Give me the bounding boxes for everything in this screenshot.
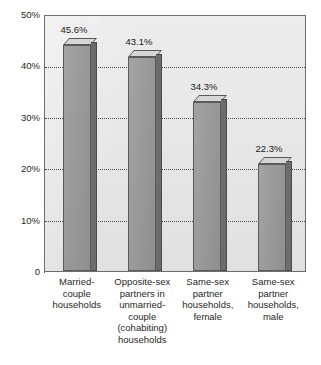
x-axis-label-line: (cohabiting) (111, 322, 175, 334)
bar-side-face (91, 42, 97, 271)
bar-front-face (63, 45, 91, 271)
x-axis-label-same-sex-partner-male: Same-sex partner households, male (241, 276, 307, 346)
bar-front-face (128, 57, 156, 271)
x-axis-label-line: Married- (45, 276, 109, 288)
x-axis-label-line: households, (176, 299, 240, 311)
bar-value-label-1: 45.6% (41, 24, 107, 35)
bar-value-label-2: 43.1% (106, 36, 172, 47)
x-axis-label-line: households, (242, 299, 306, 311)
x-axis-label-line: couple (111, 311, 175, 323)
bar-value-label-3: 34.3% (171, 81, 237, 92)
x-axis-label-line: households (45, 299, 109, 311)
bar-value-label-4: 22.3% (236, 143, 302, 154)
y-axis-tick-label-30: 30% (4, 113, 40, 123)
x-axis-label-line: partners in (111, 288, 175, 300)
x-axis-labels: Married- couple households Opposite-sex … (44, 276, 306, 346)
bar-front-face (258, 164, 286, 271)
x-axis-label-line: households (111, 334, 175, 346)
y-axis-tick-label-50: 50% (4, 10, 40, 20)
x-axis-label-line: Same-sex (176, 276, 240, 288)
y-axis-tick-label-20: 20% (4, 164, 40, 174)
x-axis-label-line: Same-sex (242, 276, 306, 288)
x-axis-label-line: partner (242, 288, 306, 300)
y-axis-tick-label-0: 0 (4, 267, 40, 277)
bar-same-sex-partner-female (193, 95, 221, 271)
x-axis-label-line: unmarried- (111, 299, 175, 311)
x-axis-label-line: partner (176, 288, 240, 300)
x-axis-label-married-couple-households: Married- couple households (44, 276, 110, 346)
x-axis-label-opposite-sex-partners: Opposite-sex partners in unmarried- coup… (110, 276, 176, 346)
bar-opposite-sex-partners (128, 50, 156, 271)
bar-chart: 50% 40% 30% 20% 10% 0 (0, 0, 321, 365)
bar-side-face (221, 99, 227, 271)
x-axis-label-line: couple (45, 288, 109, 300)
y-axis-tick-label-10: 10% (4, 216, 40, 226)
bar-side-face (286, 161, 292, 271)
x-axis-label-line: female (176, 311, 240, 323)
bar-same-sex-partner-male (258, 157, 286, 271)
bar-front-face (193, 102, 221, 271)
x-axis-label-line: Opposite-sex (111, 276, 175, 288)
y-axis-tick-label-40: 40% (4, 61, 40, 71)
x-axis-label-same-sex-partner-female: Same-sex partner households, female (175, 276, 241, 346)
bar-married-couple-households (63, 38, 91, 271)
x-axis-label-line: male (242, 311, 306, 323)
bar-side-face (156, 54, 162, 271)
